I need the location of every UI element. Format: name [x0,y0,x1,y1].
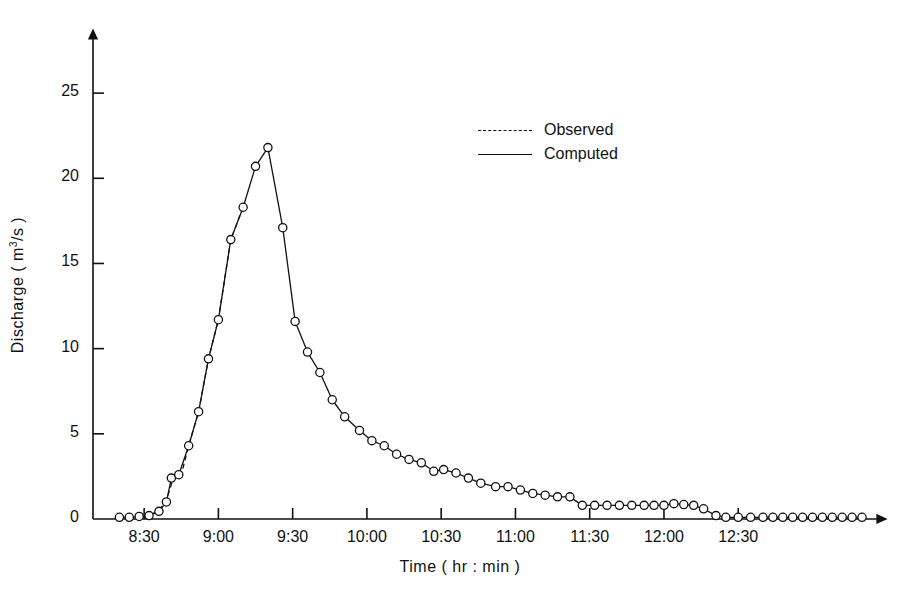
series-line-observed [127,207,243,517]
data-point-marker [660,501,668,509]
data-point-marker [848,513,856,521]
data-point-marker [452,469,460,477]
data-point-marker [185,442,193,450]
data-point-marker [464,474,472,482]
data-point-marker [553,493,561,501]
data-point-marker [858,513,866,521]
data-point-marker [251,162,259,170]
y-axis-title: Discharge ( m3/s ) [8,170,27,400]
data-point-marker [264,144,272,152]
legend-label-computed: Computed [544,145,618,163]
legend-entry-observed: Observed [478,118,618,142]
x-tick-label: 12:30 [693,528,783,546]
data-point-marker [828,513,836,521]
data-point-marker [341,413,349,421]
data-point-marker [368,437,376,445]
data-point-marker [405,455,413,463]
data-point-marker [214,316,222,324]
y-tick-label: 0 [27,508,79,526]
data-point-marker [417,459,425,467]
x-axis-title: Time ( hr : min ) [330,558,590,576]
data-point-marker [769,513,777,521]
data-point-marker [789,513,797,521]
data-point-marker [680,500,688,508]
data-point-marker [690,501,698,509]
data-point-marker [303,348,311,356]
y-tick-label: 15 [27,252,79,270]
data-point-marker [798,513,806,521]
data-point-marker [155,507,163,515]
data-point-marker [818,513,826,521]
data-point-marker [393,450,401,458]
data-point-marker [204,355,212,363]
data-point-marker [115,513,123,521]
data-point-marker [591,501,599,509]
data-point-marker [603,501,611,509]
legend-entry-computed: Computed [478,142,618,166]
data-point-marker [227,236,235,244]
data-point-marker [504,483,512,491]
data-point-marker [135,512,143,520]
data-point-marker [566,493,574,501]
y-tick-label: 25 [27,82,79,100]
data-point-marker [125,513,133,521]
chart-canvas [0,0,904,602]
data-point-marker [145,511,153,519]
data-point-marker [712,511,720,519]
data-point-marker [808,513,816,521]
data-point-marker [759,513,767,521]
data-point-marker [640,501,648,509]
data-point-marker [328,396,336,404]
data-point-marker [516,486,524,494]
data-point-marker [291,317,299,325]
data-point-marker [734,513,742,521]
data-point-marker [162,498,170,506]
data-point-marker [722,513,730,521]
data-point-marker [355,426,363,434]
data-point-marker [477,479,485,487]
data-point-marker [529,489,537,497]
chart-legend: Observed Computed [478,118,618,166]
data-point-marker [430,467,438,475]
y-axis-title-suffix: /s ) [9,217,26,241]
legend-swatch-solid-icon [478,154,532,155]
axes [93,38,878,519]
data-point-marker [779,513,787,521]
legend-swatch-dashed-icon [478,130,532,131]
hydrograph-figure: Discharge ( m3/s ) Time ( hr : min ) Obs… [0,0,904,602]
y-tick-label: 5 [27,423,79,441]
data-point-marker [615,501,623,509]
data-point-marker [316,368,324,376]
data-point-marker [670,500,678,508]
data-point-marker [699,505,707,513]
data-series [115,144,866,522]
data-point-marker [747,513,755,521]
data-point-marker [440,465,448,473]
data-point-marker [239,203,247,211]
data-point-marker [175,471,183,479]
data-point-marker [628,501,636,509]
y-tick-label: 20 [27,167,79,185]
data-point-marker [194,408,202,416]
data-point-marker [380,442,388,450]
data-point-marker [279,224,287,232]
series-line-computed [119,148,862,518]
y-tick-label: 10 [27,338,79,356]
data-point-marker [541,491,549,499]
data-point-marker [838,513,846,521]
y-axis-title-exponent: 3 [8,241,19,247]
data-point-marker [492,483,500,491]
legend-label-observed: Observed [544,121,613,139]
y-axis-title-prefix: Discharge ( m [9,247,26,353]
data-point-marker [650,501,658,509]
data-point-marker [578,501,586,509]
